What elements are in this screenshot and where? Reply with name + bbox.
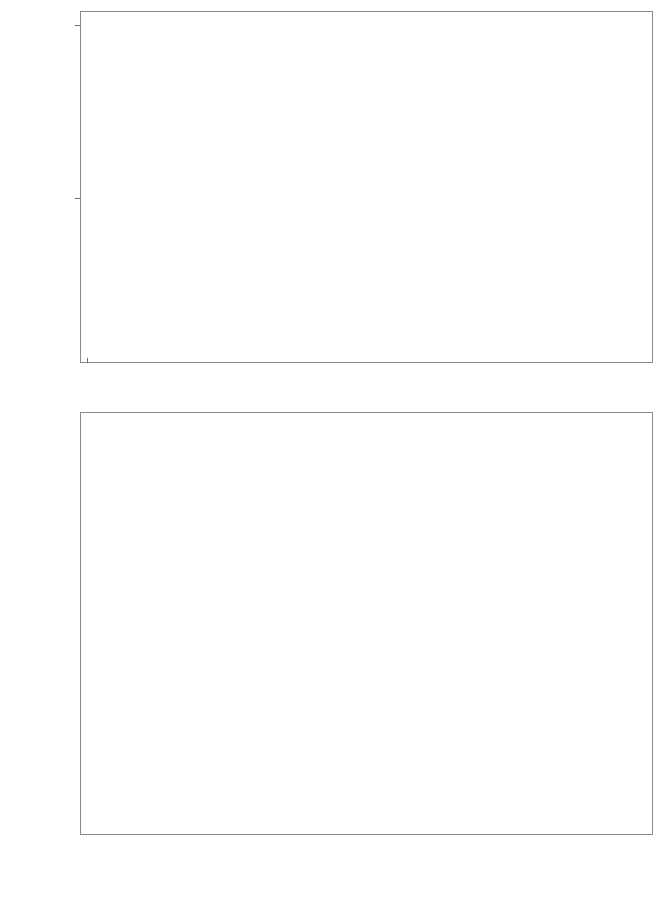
bottom-scatter-canvas (81, 413, 652, 834)
top-ytick-mark-1 (75, 198, 80, 199)
top-chart-panel (0, 0, 668, 400)
bottom-plot-area (80, 412, 653, 835)
top-xtick-mark-0 (87, 358, 88, 363)
top-ytick-mark-0 (75, 25, 80, 26)
figure-root (0, 0, 668, 899)
bottom-chart-panel (0, 400, 668, 899)
top-scatter-canvas (81, 12, 652, 362)
top-plot-area (80, 11, 653, 363)
